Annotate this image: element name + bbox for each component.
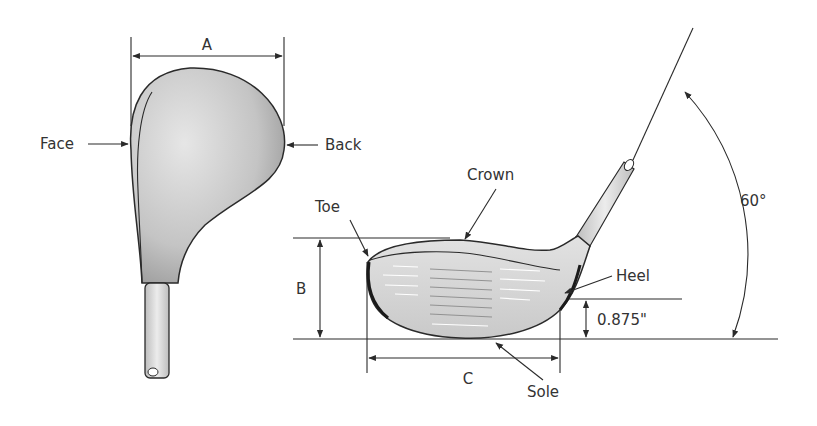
side-view: B C 0.875": [293, 28, 778, 401]
dimension-b-label: B: [296, 280, 306, 298]
hosel-opening: [148, 368, 158, 376]
face-label: Face: [40, 135, 74, 153]
hosel: [145, 283, 169, 378]
sole-arrow: [496, 343, 543, 380]
heel-label: Heel: [616, 267, 650, 285]
toe-label: Toe: [314, 198, 340, 216]
golf-club-diagram: A Face Back B C: [0, 0, 817, 426]
sole-label: Sole: [527, 383, 559, 401]
club-head-side: [367, 236, 590, 338]
heel-height-label: 0.875": [597, 311, 647, 329]
club-head-top: [131, 68, 285, 283]
top-view: A Face Back: [40, 36, 362, 378]
crown-arrow: [465, 189, 496, 239]
shaft-axis-line: [633, 28, 693, 160]
crown-label: Crown: [467, 166, 514, 184]
back-label: Back: [325, 136, 362, 154]
dimension-c-label: C: [463, 370, 473, 388]
lie-angle-label: 60°: [740, 192, 767, 210]
lie-angle-arc: [685, 92, 748, 337]
dimension-a-label: A: [202, 36, 213, 54]
